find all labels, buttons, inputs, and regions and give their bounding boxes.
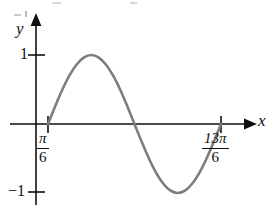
y-axis-label: y [16, 20, 24, 37]
x-tick-left-numerator: π [37, 131, 49, 149]
y-tick-label-one: 1 [20, 46, 28, 62]
x-axis-label: x [258, 112, 266, 129]
x-tick-right-denominator: 6 [202, 149, 229, 166]
x-axis-arrowhead [244, 119, 257, 130]
y-axis-arrowhead [31, 13, 42, 26]
x-tick-label-thirteen-pi-over-six: 13π 6 [202, 131, 229, 166]
x-tick-left-denominator: 6 [37, 149, 49, 166]
y-tick-label-negative-one: −1 [8, 183, 25, 199]
graph-canvas [0, 0, 276, 216]
x-tick-label-pi-over-six: π 6 [37, 131, 49, 166]
sine-curve-figure: y x 1 −1 π 6 13π 6 [0, 0, 276, 216]
x-tick-right-numerator: 13π [202, 131, 229, 149]
y-axis [31, 13, 42, 205]
